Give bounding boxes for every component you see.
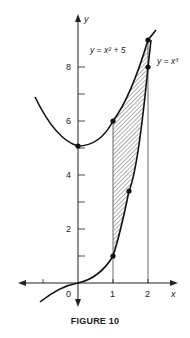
point-1-1 xyxy=(110,253,115,258)
point-2-8 xyxy=(145,64,150,69)
y-tick-label-4: 4 xyxy=(66,170,71,180)
x-tick-label-2: 2 xyxy=(145,289,150,299)
x-axis-label: x xyxy=(170,289,176,299)
point-1.5-3.4 xyxy=(126,188,131,193)
parabola-label: y = x² + 5 xyxy=(89,45,126,55)
y-axis-label: y xyxy=(83,14,89,24)
y-axis xyxy=(75,14,85,307)
point-1-6 xyxy=(110,118,115,123)
figure-canvas: 0 1 2 2 4 6 8 x y y = x² + 5 y = x³ xyxy=(0,0,190,338)
y-tick-label-2: 2 xyxy=(66,224,71,234)
y-tick-label-6: 6 xyxy=(66,116,71,126)
x-tick-label-1: 1 xyxy=(110,289,115,299)
point-0-5 xyxy=(75,143,80,148)
shaded-area xyxy=(113,40,148,256)
point-2-9 xyxy=(145,37,150,42)
x-tick-label-0: 0 xyxy=(66,289,71,299)
y-tick-label-8: 8 xyxy=(66,62,71,72)
figure-caption: FIGURE 10 xyxy=(0,316,190,326)
cubic-label: y = x³ xyxy=(156,56,179,66)
x-axis xyxy=(18,279,178,286)
